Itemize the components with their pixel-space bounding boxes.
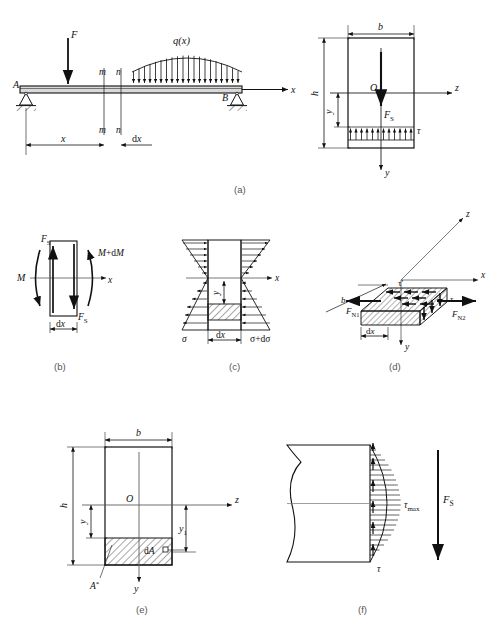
label-b-dx: dx	[56, 319, 66, 329]
label-axis-x: x	[290, 84, 296, 95]
label-moment-m: M	[16, 272, 26, 283]
caption-e: (e)	[136, 604, 148, 615]
label-e-axis-y: y	[133, 583, 139, 594]
label-d-axis-z: z	[465, 209, 470, 219]
panel-c-normal-stress: x σ	[182, 240, 280, 344]
label-axis-z: z	[454, 82, 459, 93]
hatched-layer-c	[208, 304, 241, 320]
panel-e-section-area: b h y y1 z y O dA A*	[58, 427, 239, 594]
panel-a-beam: x A B F	[12, 29, 296, 155]
label-da: dA	[144, 546, 155, 556]
label-d-axis-y: y	[404, 342, 410, 352]
label-n-bottom: n	[116, 125, 121, 135]
caption-a: (a)	[234, 184, 246, 195]
caption-b: (b)	[54, 361, 66, 372]
panel-d-3d-block: z x y τ' τ FN1	[326, 209, 486, 352]
label-tau: τ	[417, 126, 421, 136]
label-m-bottom: m	[99, 125, 106, 135]
panel-f-parabolic-shear: τmax τ FS	[287, 443, 454, 574]
sigma-right-arrows	[242, 243, 270, 323]
element-b-rect	[50, 241, 77, 316]
label-e-b: b	[136, 427, 141, 438]
label-m-top: m	[99, 67, 106, 77]
element-da-square	[163, 547, 168, 552]
label-sigma-right: σ+dσ	[250, 334, 270, 344]
label-d-axis-x: x	[480, 270, 486, 280]
caption-d: (d)	[389, 361, 401, 372]
label-a-star: A*	[89, 580, 100, 591]
sigma-right-lower	[241, 278, 270, 330]
panel-b-element: x M M+dM FS FS dx	[16, 234, 125, 333]
area-star-hatched	[105, 538, 172, 565]
parabola-ordinates	[370, 450, 401, 555]
label-d-b: b	[341, 295, 346, 305]
label-tau-max: τmax	[404, 500, 420, 513]
label-dim-dx: dx	[132, 133, 142, 144]
caption-c: (c)	[229, 361, 240, 372]
label-tau-prime: τ'	[398, 278, 404, 288]
panel-a-cross-section: b h y z y O FS	[309, 21, 459, 178]
label-dim-h: h	[309, 91, 320, 96]
label-f-tau: τ	[377, 564, 381, 574]
label-e-y: y	[77, 519, 88, 525]
label-b-shear-bottom: FS	[77, 312, 88, 325]
label-d-tau: τ	[450, 294, 454, 304]
label-n-top: n	[116, 67, 121, 77]
beam-body	[20, 86, 242, 93]
sigma-left-lower	[182, 278, 208, 330]
caption-f: (f)	[358, 604, 367, 615]
label-f-fs: FS	[442, 494, 454, 508]
label-fn2: FN2	[451, 309, 465, 321]
sigma-left-upper	[182, 240, 208, 278]
label-support-a: A	[12, 79, 20, 90]
label-dim-y: y	[323, 109, 334, 115]
block-front-face	[361, 311, 420, 325]
label-e-centroid-o: O	[126, 493, 133, 504]
label-c-y: y	[211, 290, 221, 296]
label-b-axis-x: x	[107, 275, 113, 285]
label-e-axis-z: z	[234, 494, 239, 505]
support-roller-right	[227, 92, 247, 111]
label-moment-mdm: M+dM	[97, 248, 125, 258]
label-c-axis-x: x	[274, 273, 280, 283]
figure-svg: x A B F	[0, 0, 501, 633]
distributed-load-arrows	[134, 55, 239, 83]
panel-d-axis-z	[401, 218, 463, 280]
label-c-dx: dx	[216, 330, 226, 340]
label-dim-b: b	[378, 21, 383, 32]
label-support-b: B	[222, 92, 228, 103]
label-axis-y: y	[384, 167, 390, 178]
label-dim-x: x	[60, 133, 66, 144]
label-e-h: h	[58, 503, 69, 508]
sigma-right-upper	[241, 240, 270, 278]
label-b-shear-top: FS	[40, 234, 51, 247]
distributed-load-curve	[132, 58, 242, 72]
label-point-load-F: F	[70, 29, 78, 40]
label-fn1: FN1	[345, 306, 359, 318]
label-distributed-load-qx: q(x)	[173, 35, 190, 47]
label-sigma-left: σ	[182, 334, 187, 344]
label-d-dx: dx	[366, 326, 375, 336]
distributed-load-group: q(x)	[132, 35, 242, 83]
sigma-left-arrows	[183, 243, 207, 323]
label-centroid-o: O	[370, 82, 377, 93]
engineering-figure-root: x A B F	[0, 0, 501, 633]
